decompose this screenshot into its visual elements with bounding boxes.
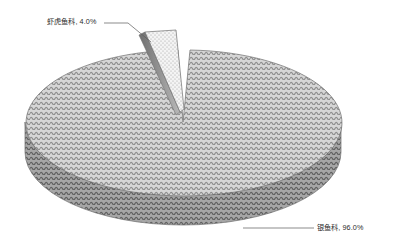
slice-label-gobiidae: 虾虎鱼科, 4.0% <box>47 18 96 25</box>
slice-label-salangidae: 银鱼科, 96.0% <box>317 224 363 231</box>
pie-slice-top-salangidae <box>26 50 342 196</box>
pie-chart: 虾虎鱼科, 4.0% 银鱼科, 96.0% <box>0 0 403 250</box>
pie-chart-canvas <box>0 0 403 250</box>
